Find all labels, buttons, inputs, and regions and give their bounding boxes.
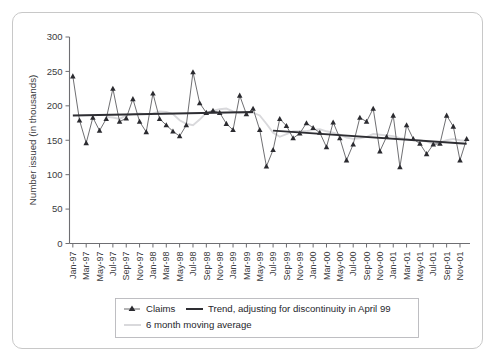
claims-data-point [83,140,89,145]
x-tick-label: Mar-00 [322,252,332,281]
claims-data-point [130,96,136,101]
y-axis-label: Number issued (in thousands) [27,75,38,206]
x-tick-label: Mar-97 [81,252,91,281]
trend-segment [273,131,467,144]
x-tick-label: Sep-99 [282,252,292,281]
y-tick-label: 250 [47,66,63,77]
y-tick-label: 50 [52,203,63,214]
claims-markers [70,69,469,169]
legend-label-claims: Claims [146,303,176,314]
claims-data-point [224,121,230,126]
claims-data-point [457,157,463,162]
claims-data-point [404,122,410,127]
claims-data-point [377,148,383,153]
claims-data-point [350,141,356,146]
claims-data-point [277,116,283,121]
claims-data-point [464,136,470,141]
legend: Claims Trend, adjusting for discontinuit… [116,299,419,338]
y-axis-label-text: Number issued (in thousands) [27,75,38,206]
claims-data-point [97,128,103,133]
x-tick-label: Mar-01 [402,252,412,281]
x-tick-label: Nov-01 [455,252,465,281]
x-tick-label: Sep-00 [362,252,372,281]
claims-data-point [157,116,163,121]
claims-data-point [137,119,143,124]
claims-series-line [73,72,467,167]
x-tick-label: Nov-99 [295,252,305,281]
y-tick-label: 300 [47,31,63,42]
x-tick-label: May-97 [95,252,105,282]
x-tick-label: Jul-00 [348,252,358,277]
x-tick-label: Sep-97 [121,252,131,281]
x-tick-label: Mar-98 [161,252,171,281]
y-tick-label: 100 [47,169,63,180]
x-tick-label: Jan-97 [68,252,78,280]
claims-data-point [70,73,76,78]
claims-data-point [304,120,310,125]
claims-data-point [110,86,116,91]
x-tick-label: May-01 [415,252,425,282]
x-tick-label: Nov-98 [215,252,225,281]
y-tick-label: 0 [57,238,62,249]
x-tick-label: Jan-00 [308,252,318,280]
x-tick-label: Jul-97 [108,252,118,277]
claims-data-point [290,135,296,140]
claims-data-point [397,164,403,169]
claims-data-point [330,119,336,124]
claims-data-point [310,125,316,130]
x-axis-ticks: Jan-97Mar-97May-97Jul-97Sep-97Nov-97Jan-… [68,244,465,282]
claims-data-point [451,124,457,129]
claims-data-point [390,113,396,118]
x-tick-label: Jan-99 [228,252,238,280]
claims-data-point [144,129,150,134]
claims-data-point [370,106,376,111]
y-tick-label: 150 [47,135,63,146]
y-axis-ticks: 050100150200250300 [47,31,70,249]
claims-trend-chart: Number issued (in thousands) 05010015020… [0,0,497,361]
claims-data-point [257,127,263,132]
claims-data-point [77,117,83,122]
x-tick-label: Nov-97 [135,252,145,281]
claims-data-point [344,157,350,162]
x-tick-label: May-00 [335,252,345,282]
x-tick-label: Nov-00 [375,252,385,281]
claims-data-point [117,119,123,124]
x-tick-label: Jan-01 [388,252,398,280]
claims-data-point [364,119,370,124]
legend-label-moving-average: 6 month moving average [146,319,252,330]
claims-data-point [264,164,270,169]
x-tick-label: Jul-98 [188,252,198,277]
x-tick-label: May-98 [175,252,185,282]
x-tick-label: Sep-01 [442,252,452,281]
x-tick-label: May-99 [255,252,265,282]
claims-data-point [237,93,243,98]
x-tick-label: Jul-01 [428,252,438,277]
claims-data-point [270,147,276,152]
legend-item-trend[interactable]: Trend, adjusting for discontinuity in Ap… [186,303,391,314]
claims-data-point [177,133,183,138]
y-tick-label: 200 [47,100,63,111]
claims-data-point [357,115,363,120]
claims-data-point [197,100,203,105]
claims-data-point [444,113,450,118]
claims-data-point [150,91,156,96]
claims-data-point [250,106,256,111]
x-tick-label: Jul-99 [268,252,278,277]
legend-label-trend: Trend, adjusting for discontinuity in Ap… [208,303,391,314]
x-tick-label: Jan-98 [148,252,158,280]
x-tick-label: Mar-99 [242,252,252,281]
chart-svg: Number issued (in thousands) 05010015020… [0,0,497,361]
x-tick-label: Sep-98 [202,252,212,281]
claims-data-point [190,69,196,74]
claims-data-point [324,144,330,149]
